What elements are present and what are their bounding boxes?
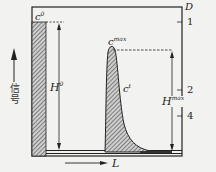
tick-label-1: 1: [187, 17, 193, 27]
diagram-svg: [0, 0, 216, 172]
h0-arrow-top-icon: [57, 23, 61, 30]
label-d: D: [185, 2, 193, 12]
hmax-arrow-bottom-icon: [170, 144, 174, 151]
tick-label-4: 4: [187, 111, 193, 121]
label-h0: H0: [50, 82, 63, 93]
initial-block: [32, 22, 46, 156]
diagram-canvas: c0 H0 cmax ct Hmax D 1 2 4 L 信号: [0, 0, 216, 172]
signal-label: 信号: [9, 83, 21, 105]
length-arrow-head-icon: [100, 161, 108, 165]
signal-arrow-head-icon: [11, 48, 17, 60]
tick-label-2: 2: [187, 85, 193, 95]
label-ct: ct: [123, 84, 131, 94]
label-l: L: [112, 158, 119, 169]
hmax-arrow-top-icon: [170, 51, 174, 58]
label-cmax: cmax: [108, 37, 126, 47]
h0-arrow-bottom-icon: [57, 143, 61, 150]
elution-peak: [105, 46, 150, 152]
label-c0: c0: [35, 12, 44, 22]
label-hmax: Hmax: [161, 96, 185, 107]
